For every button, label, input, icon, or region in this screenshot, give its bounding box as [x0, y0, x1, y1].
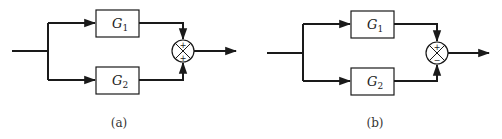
- block-g1: G1: [351, 11, 394, 38]
- sum-sign-top: +: [180, 41, 187, 50]
- g1-to-sum: [139, 23, 183, 39]
- sum-sign-bottom: +: [180, 54, 187, 63]
- g2-to-sum: [139, 63, 183, 80]
- block-g2: G2: [96, 67, 139, 94]
- sum-sign-bottom: −: [434, 56, 441, 65]
- g2-to-sum: [394, 65, 437, 81]
- block-diagrams: G1 G2 + + (a) G1 G2: [0, 0, 502, 139]
- sum-sign-top: +: [434, 43, 441, 52]
- diagram-a: G1 G2 + + (a): [12, 10, 236, 130]
- diagram-b: G1 G2 + − (b): [267, 11, 489, 130]
- summing-junction-b: + −: [426, 42, 448, 65]
- block-g2: G2: [351, 68, 394, 95]
- caption-a: (a): [111, 116, 128, 130]
- block-g1: G1: [96, 10, 139, 37]
- caption-b: (b): [366, 116, 383, 130]
- g1-to-sum: [394, 24, 437, 41]
- summing-junction-a: + +: [172, 40, 194, 63]
